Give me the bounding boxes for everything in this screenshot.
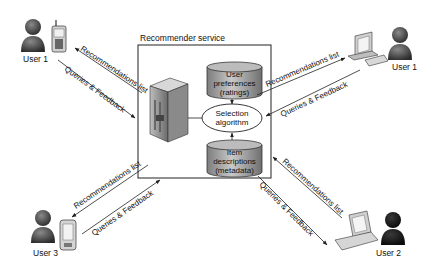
user-top-right: User 1	[348, 27, 417, 72]
pda-icon	[60, 220, 76, 250]
item-descriptions-label-1: Item	[227, 148, 243, 157]
user-bottom-left: User 3	[31, 210, 76, 258]
selection-algorithm-label-1: Selection	[216, 109, 249, 118]
recommender-diagram: Recommender service User preferences (ra…	[0, 0, 434, 277]
user-label: User 1	[392, 62, 417, 72]
user-icon	[388, 27, 412, 60]
item-descriptions-db: Item descriptions (metadata)	[207, 140, 262, 177]
user-icon	[31, 210, 55, 243]
user-top-left: User 1	[21, 19, 66, 64]
item-descriptions-label-3: (metadata)	[215, 166, 254, 175]
server-icon	[150, 78, 188, 142]
queries-label-top-right: Queries & Feedback	[279, 79, 350, 118]
desktop-computer-icon	[348, 32, 388, 66]
user-bottom-right: User 2	[335, 211, 405, 258]
item-descriptions-label-2: descriptions	[213, 157, 256, 166]
queries-label-bottom-right: Queries & Feedback	[258, 180, 317, 239]
selection-algorithm: Selection algorithm	[202, 104, 262, 132]
user-label: User 2	[376, 248, 401, 258]
user-icon	[21, 19, 45, 52]
user-preferences-db: User preferences (ratings)	[207, 62, 262, 99]
service-title: Recommender service	[140, 33, 225, 43]
user-icon	[381, 212, 405, 245]
user-preferences-label-3: (ratings)	[220, 88, 250, 97]
laptop-icon	[335, 211, 378, 250]
recommendations-label-top-right: Recommendations list	[264, 50, 341, 89]
user-label: User 3	[33, 248, 58, 258]
user-label: User 1	[23, 54, 48, 64]
selection-algorithm-label-2: algorithm	[216, 118, 249, 127]
user-preferences-label-2: preferences	[213, 79, 255, 88]
mobile-phone-icon	[52, 20, 66, 52]
user-preferences-label-1: User	[226, 70, 243, 79]
recommendations-edge-bottom-left	[72, 165, 148, 217]
